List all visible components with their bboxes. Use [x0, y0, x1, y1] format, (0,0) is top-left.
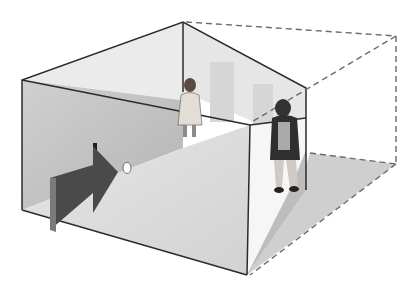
diagram-canvas [0, 0, 413, 288]
ames-room-diagram [0, 0, 413, 288]
peephole [123, 163, 131, 174]
wall-picture-1 [210, 62, 234, 122]
